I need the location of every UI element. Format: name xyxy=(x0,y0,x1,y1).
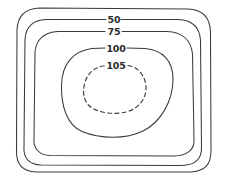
contour-plot: 50 75 100 105 xyxy=(0,0,225,181)
contour-label-50: 50 xyxy=(108,14,121,25)
contour-label-75: 75 xyxy=(108,26,121,37)
contour-label-105: 105 xyxy=(106,60,125,71)
contour-label-100: 100 xyxy=(106,43,126,54)
contour-plot-canvas: 50 75 100 105 xyxy=(0,0,225,181)
